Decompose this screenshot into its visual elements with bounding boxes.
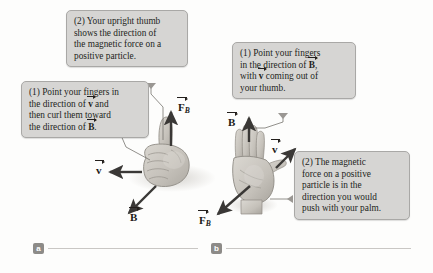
vector-v-inline-b: v bbox=[259, 71, 264, 83]
label-velocity-symbol-a: v bbox=[96, 164, 102, 176]
callout-b1-line3: with v coming out of bbox=[240, 71, 348, 83]
label-force-subscript-b: B bbox=[206, 219, 211, 228]
callout-a2-line3: the magnetic force on a bbox=[74, 39, 180, 51]
vector-b-inline-b: B bbox=[309, 60, 315, 72]
callout-b2-line1: (2) The magnetic bbox=[302, 157, 402, 169]
callout-a2-line1: (2) Your upright thumb bbox=[74, 16, 180, 28]
leader-line-b-step1 bbox=[255, 113, 283, 128]
panel-rule-b bbox=[226, 248, 411, 249]
callout-b1-line4: your thumb. bbox=[240, 83, 348, 95]
callout-a1-line2-tail: and bbox=[93, 99, 109, 109]
label-force-panel-a: FB bbox=[178, 101, 190, 115]
arrow-force-panel-b bbox=[218, 186, 250, 214]
callout-b1-line3-tail: coming out of bbox=[264, 71, 318, 81]
callout-b2-line5: push with your palm. bbox=[302, 203, 402, 215]
label-force-subscript-a: B bbox=[185, 106, 190, 115]
label-bfield-symbol-b: B bbox=[228, 116, 235, 128]
callout-b2-line4: direction you would bbox=[302, 192, 402, 204]
panel-rule-a bbox=[48, 248, 198, 249]
callout-b1-line1: (1) Point your fingers bbox=[240, 48, 348, 60]
panel-badge-a: a bbox=[33, 243, 44, 254]
callout-a1-line4: the direction of B. bbox=[29, 122, 141, 134]
leader-line-a-step2 bbox=[151, 83, 163, 140]
vector-v-inline: v bbox=[88, 99, 93, 111]
panel-badge-b: b bbox=[211, 243, 222, 254]
callout-a1-line4-text: the direction of bbox=[29, 122, 88, 132]
label-velocity-panel-b: v bbox=[272, 143, 278, 155]
label-force-symbol-b: F bbox=[199, 214, 206, 226]
label-bfield-panel-b: B bbox=[228, 116, 235, 128]
callout-a1-line2-text: the direction of bbox=[29, 99, 88, 109]
label-velocity-panel-a: v bbox=[96, 164, 102, 176]
callout-a1-line3: then curl them toward bbox=[29, 110, 141, 122]
callout-a2-line4: positive particle. bbox=[74, 51, 180, 63]
callout-a2-line2: shows the direction of bbox=[74, 28, 180, 40]
magnetic-force-right-hand-rule-figure: (2) Your upright thumb shows the directi… bbox=[0, 0, 433, 273]
callout-panel-a-step2: (2) Your upright thumb shows the directi… bbox=[66, 10, 188, 67]
label-force-symbol-a: F bbox=[178, 101, 185, 113]
arrow-velocity-panel-b bbox=[276, 149, 295, 168]
callout-panel-b-step1: (1) Point your fingers in the direction … bbox=[232, 42, 356, 99]
callout-panel-b-step2: (2) The magnetic force on a positive par… bbox=[294, 151, 410, 220]
callout-a1-line1: (1) Point your fingers in bbox=[29, 87, 141, 99]
callout-a1-line2: the direction of v and bbox=[29, 99, 141, 111]
callout-b1-line3-text: with bbox=[240, 71, 259, 81]
callout-panel-a-step1: (1) Point your fingers in the direction … bbox=[21, 81, 149, 138]
callout-b2-line2: force on a positive bbox=[302, 169, 402, 181]
label-force-panel-b: FB bbox=[199, 214, 211, 228]
label-bfield-panel-a: B bbox=[130, 211, 137, 223]
callout-b1-line2-tail: , bbox=[315, 60, 317, 70]
callout-b1-line2-text: in the direction of bbox=[240, 60, 309, 70]
callout-b2-line3: particle is in the bbox=[302, 180, 402, 192]
callout-b1-line2: in the direction of B, bbox=[240, 60, 348, 72]
vector-b-inline: B bbox=[88, 122, 94, 134]
label-velocity-symbol-b: v bbox=[272, 143, 278, 155]
callout-a1-line4-tail: . bbox=[94, 122, 96, 132]
label-bfield-symbol-a: B bbox=[130, 211, 137, 223]
